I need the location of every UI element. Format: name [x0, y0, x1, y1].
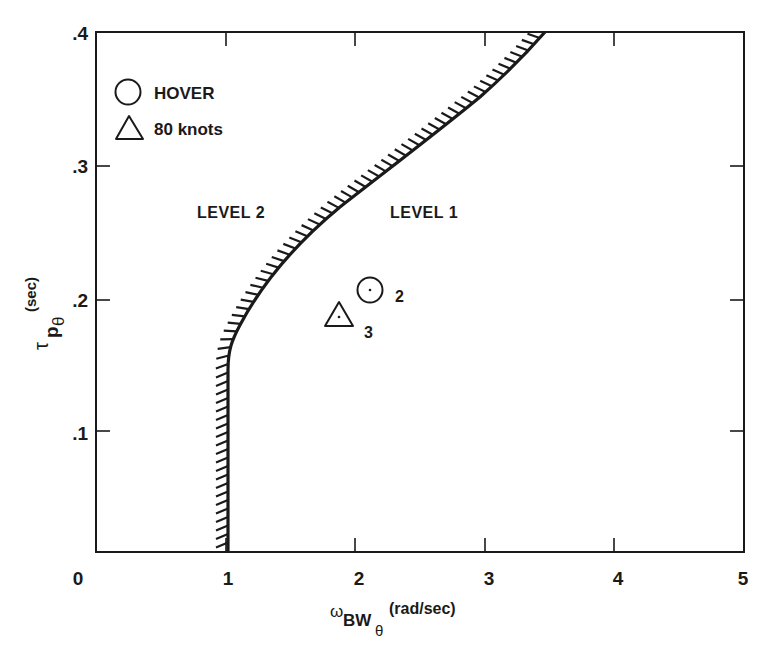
x-axis-label: ω BW θ (rad/sec): [330, 600, 456, 639]
x-tick-5: 5: [738, 568, 749, 589]
chart-canvas: 0 1 2 3 4 5 .4 .3 .2 .1 ω BW θ (rad/sec)…: [0, 0, 773, 652]
level-2-label: LEVEL 2: [197, 204, 265, 221]
svg-text:(rad/sec): (rad/sec): [389, 600, 456, 617]
y-tick-2: .2: [72, 290, 88, 311]
svg-text:(sec): (sec): [22, 277, 39, 312]
level-1-label: LEVEL 1: [390, 204, 458, 221]
y-tick-4: .4: [72, 23, 88, 44]
svg-text:p: p: [41, 326, 62, 338]
80knots-triangle-marker-icon: [325, 302, 353, 326]
boundary-hatch: [216, 34, 540, 556]
80knots-point-label: 3: [364, 324, 373, 341]
svg-text:ω: ω: [330, 602, 343, 621]
legend: HOVER 80 knots: [116, 80, 223, 140]
hover-data-point: 2: [358, 278, 405, 306]
legend-80knots-label: 80 knots: [154, 120, 223, 139]
x-ticks: [226, 32, 614, 552]
level-boundary-line: [228, 32, 545, 553]
y-tick-1: .1: [72, 423, 88, 444]
svg-text:τ: τ: [30, 342, 52, 350]
y-tick-3: .3: [72, 156, 88, 177]
legend-hover-label: HOVER: [154, 84, 214, 103]
x-tick-4: 4: [613, 568, 624, 589]
x-tick-0: 0: [73, 568, 84, 589]
y-axis-label: τ p θ (sec): [22, 277, 68, 350]
plot-frame: [96, 32, 744, 552]
legend-triangle-icon: [116, 116, 143, 139]
x-tick-1: 1: [223, 568, 234, 589]
legend-circle-icon: [116, 80, 141, 105]
hover-point-label: 2: [395, 288, 404, 305]
svg-text:θ: θ: [49, 317, 68, 326]
80knots-data-point: 3: [325, 302, 373, 341]
svg-text:BW: BW: [343, 611, 372, 630]
x-tick-2: 2: [354, 568, 365, 589]
svg-text:θ: θ: [375, 622, 383, 639]
x-tick-3: 3: [484, 568, 495, 589]
